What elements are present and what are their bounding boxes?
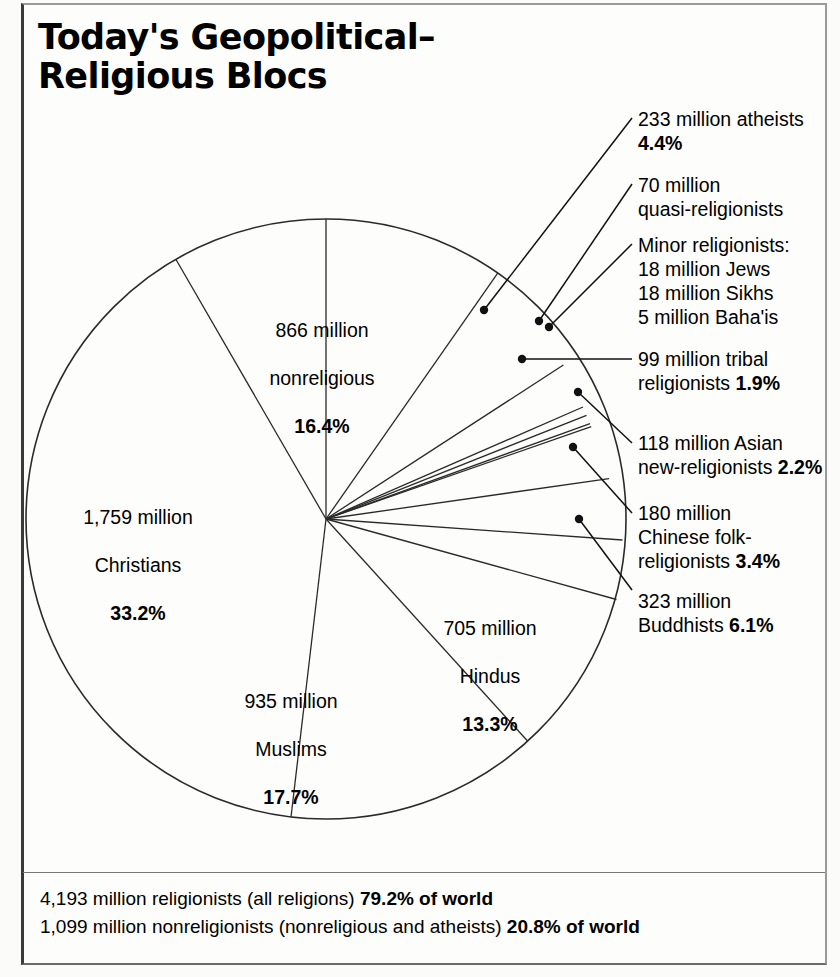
footer-line-nonreligionists-text: 1,099 million nonreligionists (nonreligi… <box>40 916 507 937</box>
footer-line-religionists-pct: 79.2% of world <box>360 888 493 909</box>
callout-asian-new-religionists-pct: 2.2% <box>778 456 822 478</box>
slice-label-hindus: 705 million Hindus 13.3% <box>400 593 580 761</box>
callout-tribal-religionists: 99 million tribal religionists 1.9% <box>638 348 838 396</box>
footer-line-nonreligionists: 1,099 million nonreligionists (nonreligi… <box>40 913 800 941</box>
callout-atheists-text: 233 million atheists <box>638 108 804 130</box>
callout-buddhists-pct: 6.1% <box>729 614 773 636</box>
callout-asian-new-religionists: 118 million Asian new-religionists 2.2% <box>638 432 840 480</box>
footer-line-religionists-text: 4,193 million religionists (all religion… <box>40 888 360 909</box>
slice-label-muslims-pct: 17.7% <box>263 786 318 808</box>
callout-minor-religionists: Minor religionists: 18 million Jews 18 m… <box>638 234 838 330</box>
callout-asian-new-religionists-text: 118 million Asian new-religionists <box>638 432 783 478</box>
slice-label-nonreligious-line1: 866 million <box>222 319 422 343</box>
callout-minor-religionists-text: Minor religionists: 18 million Jews 18 m… <box>638 234 790 328</box>
slice-label-nonreligious: 866 million nonreligious 16.4% <box>222 295 422 463</box>
footer-divider <box>23 872 825 873</box>
callout-chinese-folk-religionists: 180 million Chinese folk- religionists 3… <box>638 502 838 574</box>
callout-atheists: 233 million atheists 4.4% <box>638 108 838 156</box>
callout-atheists-pct: 4.4% <box>638 132 682 154</box>
slice-label-christians-line2: Christians <box>38 554 238 578</box>
slice-label-hindus-line1: 705 million <box>400 617 580 641</box>
slice-label-christians-line1: 1,759 million <box>38 506 238 530</box>
slice-label-nonreligious-line2: nonreligious <box>222 367 422 391</box>
footer-line-nonreligionists-pct: 20.8% of world <box>507 916 640 937</box>
slice-label-christians: 1,759 million Christians 33.2% <box>38 482 238 650</box>
callout-tribal-religionists-pct: 1.9% <box>736 372 780 394</box>
slice-label-christians-pct: 33.2% <box>110 602 165 624</box>
slice-label-muslims-line1: 935 million <box>196 690 386 714</box>
slice-label-hindus-line2: Hindus <box>400 665 580 689</box>
callout-quasi-religionists-text: 70 million quasi-religionists <box>638 174 783 220</box>
slice-label-muslims-line2: Muslims <box>196 738 386 762</box>
slice-label-hindus-pct: 13.3% <box>462 713 517 735</box>
callout-quasi-religionists: 70 million quasi-religionists <box>638 174 838 222</box>
slice-label-muslims: 935 million Muslims 17.7% <box>196 666 386 834</box>
slice-label-nonreligious-pct: 16.4% <box>294 415 349 437</box>
footer-line-religionists: 4,193 million religionists (all religion… <box>40 885 800 913</box>
callout-buddhists: 323 million Buddhists 6.1% <box>638 590 838 638</box>
footer-summary: 4,193 million religionists (all religion… <box>40 885 800 940</box>
callout-chinese-folk-religionists-pct: 3.4% <box>736 550 780 572</box>
callout-buddhists-text: 323 million Buddhists <box>638 590 731 636</box>
